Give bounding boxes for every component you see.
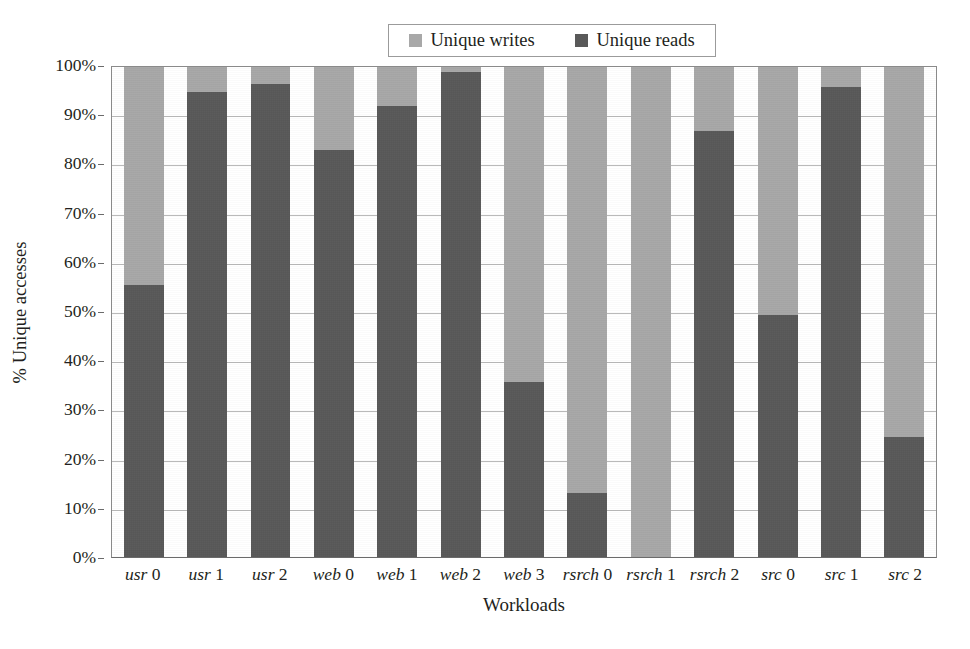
bar-segment-unique-writes[interactable] (821, 67, 861, 87)
bar-stack[interactable] (884, 67, 924, 557)
bar-stack[interactable] (631, 67, 671, 557)
x-axis-title: Workloads (111, 594, 937, 616)
bar-segment-unique-reads[interactable] (504, 382, 544, 557)
stacked-bar-chart: Unique writes Unique reads % Unique acce… (0, 0, 970, 649)
bar-segment-unique-reads[interactable] (314, 150, 354, 557)
x-axis-labels: usr 0usr 1usr 2web 0web 1web 2web 3rsrch… (111, 560, 937, 590)
bar-stack[interactable] (758, 67, 798, 557)
bar-segment-unique-writes[interactable] (377, 67, 417, 106)
y-axis-tick-mark (98, 509, 104, 510)
workload-name: web (376, 564, 404, 584)
y-axis-tick-label: 70% (64, 205, 96, 223)
bar-stack[interactable] (187, 67, 227, 557)
bar-segment-unique-reads[interactable] (124, 285, 164, 557)
workload-number: 2 (726, 564, 739, 584)
bar-segment-unique-reads[interactable] (758, 315, 798, 557)
x-axis-tick-label: web 3 (492, 560, 556, 590)
bar-segment-unique-writes[interactable] (567, 67, 607, 493)
bar-slot (239, 67, 302, 557)
bar-segment-unique-writes[interactable] (314, 67, 354, 150)
bar-slot (809, 67, 872, 557)
bar-segment-unique-reads[interactable] (884, 437, 924, 557)
legend-swatch-unique-writes (409, 34, 422, 47)
y-axis-tick-mark (98, 66, 104, 67)
x-axis-tick-label: src 1 (810, 560, 874, 590)
bar-series-container (112, 67, 936, 557)
workload-name: usr (125, 564, 147, 584)
y-axis-ticks: 0%10%20%30%40%50%60%70%80%90%100% (0, 66, 104, 558)
bar-segment-unique-writes[interactable] (124, 67, 164, 285)
workload-number: 0 (782, 564, 795, 584)
bar-stack[interactable] (821, 67, 861, 557)
y-axis-tick-label: 50% (64, 303, 96, 321)
legend-item-unique-writes[interactable]: Unique writes (409, 31, 534, 50)
workload-number: 1 (845, 564, 858, 584)
bar-stack[interactable] (504, 67, 544, 557)
y-axis-tick-label: 90% (64, 106, 96, 124)
bar-stack[interactable] (567, 67, 607, 557)
legend-item-unique-reads[interactable]: Unique reads (575, 31, 694, 50)
workload-number: 0 (147, 564, 160, 584)
y-axis-tick-label: 0% (73, 549, 96, 567)
y-axis-tick-label: 30% (64, 402, 96, 420)
x-axis-tick-label: web 1 (365, 560, 429, 590)
workload-name: web (440, 564, 468, 584)
bar-segment-unique-reads[interactable] (694, 131, 734, 557)
bar-segment-unique-reads[interactable] (187, 92, 227, 558)
x-axis-tick-label: rsrch 1 (619, 560, 683, 590)
bar-segment-unique-reads[interactable] (251, 84, 291, 557)
bar-segment-unique-reads[interactable] (567, 493, 607, 557)
workload-name: web (313, 564, 341, 584)
bar-stack[interactable] (314, 67, 354, 557)
y-axis-tick-mark (98, 214, 104, 215)
bar-stack[interactable] (251, 67, 291, 557)
bar-segment-unique-reads[interactable] (377, 106, 417, 557)
bar-slot (175, 67, 238, 557)
bar-segment-unique-writes[interactable] (758, 67, 798, 315)
x-axis-tick-label: src 2 (873, 560, 937, 590)
x-axis-tick-label: rsrch 2 (683, 560, 747, 590)
x-axis-tick-label: web 2 (429, 560, 493, 590)
workload-name: src (825, 564, 846, 584)
workload-number: 0 (341, 564, 354, 584)
workload-name: usr (252, 564, 274, 584)
bar-segment-unique-reads[interactable] (821, 87, 861, 557)
x-axis-tick-label: rsrch 0 (556, 560, 620, 590)
bar-slot (619, 67, 682, 557)
bar-stack[interactable] (124, 67, 164, 557)
workload-name: rsrch (690, 564, 726, 584)
plot-area (111, 66, 937, 558)
bar-slot (492, 67, 555, 557)
y-axis-tick-label: 80% (64, 156, 96, 174)
workload-name: rsrch (563, 564, 599, 584)
workload-name: usr (189, 564, 211, 584)
bar-segment-unique-reads[interactable] (441, 72, 481, 557)
y-axis-tick-label: 40% (64, 352, 96, 370)
x-axis-tick-label: usr 1 (175, 560, 239, 590)
workload-name: web (503, 564, 531, 584)
bar-slot (556, 67, 619, 557)
y-axis-tick-label: 100% (55, 57, 96, 75)
bar-segment-unique-writes[interactable] (694, 67, 734, 131)
bar-segment-unique-writes[interactable] (504, 67, 544, 382)
y-axis-tick-mark (98, 410, 104, 411)
bar-stack[interactable] (377, 67, 417, 557)
bar-stack[interactable] (694, 67, 734, 557)
bar-segment-unique-writes[interactable] (884, 67, 924, 437)
bar-slot (366, 67, 429, 557)
bar-slot (429, 67, 492, 557)
x-axis-tick-label: src 0 (746, 560, 810, 590)
bar-segment-unique-writes[interactable] (251, 67, 291, 84)
bar-segment-unique-writes[interactable] (187, 67, 227, 92)
workload-number: 1 (404, 564, 417, 584)
y-axis-tick-mark (98, 115, 104, 116)
y-axis-tick-mark (98, 263, 104, 264)
bar-stack[interactable] (441, 67, 481, 557)
bar-segment-unique-writes[interactable] (631, 67, 671, 557)
legend-swatch-unique-reads (575, 34, 588, 47)
x-axis-tick-label: usr 0 (111, 560, 175, 590)
y-axis-tick-mark (98, 460, 104, 461)
bar-slot (112, 67, 175, 557)
x-axis-tick-label: web 0 (302, 560, 366, 590)
y-axis-tick-label: 20% (64, 451, 96, 469)
